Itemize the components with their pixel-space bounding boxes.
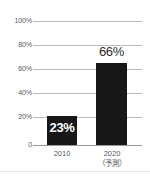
axis-baseline xyxy=(33,145,142,146)
y-tick-label-60: 60% xyxy=(2,65,32,73)
bar-value-label-2010: 23% xyxy=(47,121,77,135)
x-tick-label-2020-main: 2020 xyxy=(104,149,121,158)
x-tick-label-2020-sub: （予測） xyxy=(92,159,132,169)
y-tick-label-40: 40% xyxy=(2,89,32,97)
x-tick-label-2010: 2010 xyxy=(42,149,82,159)
plot-area: 100% 80% 60% 40% 20% 0 23% 66% 2010 2020… xyxy=(0,0,150,176)
y-tick-label-100: 100% xyxy=(2,17,32,25)
x-tick-label-2010-main: 2010 xyxy=(54,149,71,158)
y-tick-label-80: 80% xyxy=(2,41,32,49)
x-tick-label-2020: 2020 （予測） xyxy=(92,149,132,169)
bar-chart: 100% 80% 60% 40% 20% 0 23% 66% 2010 2020… xyxy=(0,0,150,176)
footer-divider xyxy=(0,171,150,172)
y-tick-label-0: 0 xyxy=(2,141,32,149)
gridline-100 xyxy=(33,21,142,22)
bar-value-label-2020: 66% xyxy=(94,45,129,59)
y-tick-label-20: 20% xyxy=(2,113,32,121)
bar-2020 xyxy=(96,63,127,145)
